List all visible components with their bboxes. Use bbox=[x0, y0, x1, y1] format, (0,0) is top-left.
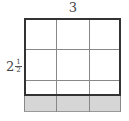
side-label-fraction: 1 2 bbox=[15, 59, 21, 74]
side-label-whole: 2 bbox=[6, 60, 14, 74]
shaded-row bbox=[24, 96, 121, 112]
top-dimension-label: 3 bbox=[66, 1, 80, 15]
area-model-grid bbox=[24, 18, 121, 112]
outlined-region-border bbox=[24, 18, 121, 96]
side-dimension-label: 2 1 2 bbox=[6, 59, 22, 74]
fraction-denominator: 2 bbox=[16, 67, 20, 74]
